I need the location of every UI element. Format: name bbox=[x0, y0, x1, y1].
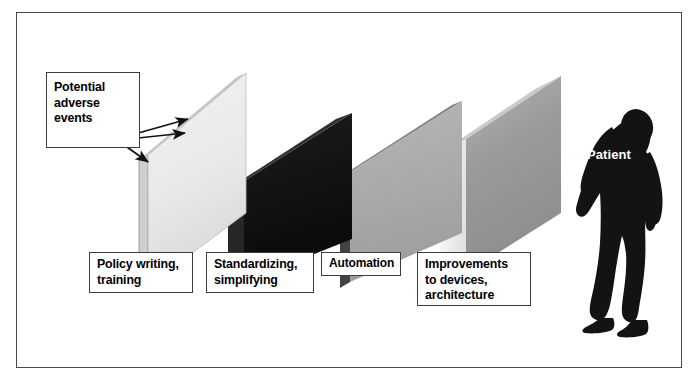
callout-box-potential-adverse-events[interactable]: Potential adverse events bbox=[46, 72, 140, 148]
figure-root: Potential adverse events Policy writing,… bbox=[0, 0, 698, 378]
barrier-label-standardizing-simplifying[interactable]: Standardizing, simplifying bbox=[206, 252, 314, 293]
barrier-label-automation[interactable]: Automation bbox=[321, 252, 401, 276]
barrier-label-policy-writing-training[interactable]: Policy writing, training bbox=[89, 252, 193, 293]
patient-label: Patient bbox=[587, 147, 631, 162]
barrier-label-improvements-to-devices-architecture[interactable]: Improvements to devices, architecture bbox=[417, 252, 531, 306]
patient-silhouette bbox=[576, 106, 663, 338]
diagram-canvas bbox=[0, 0, 698, 378]
